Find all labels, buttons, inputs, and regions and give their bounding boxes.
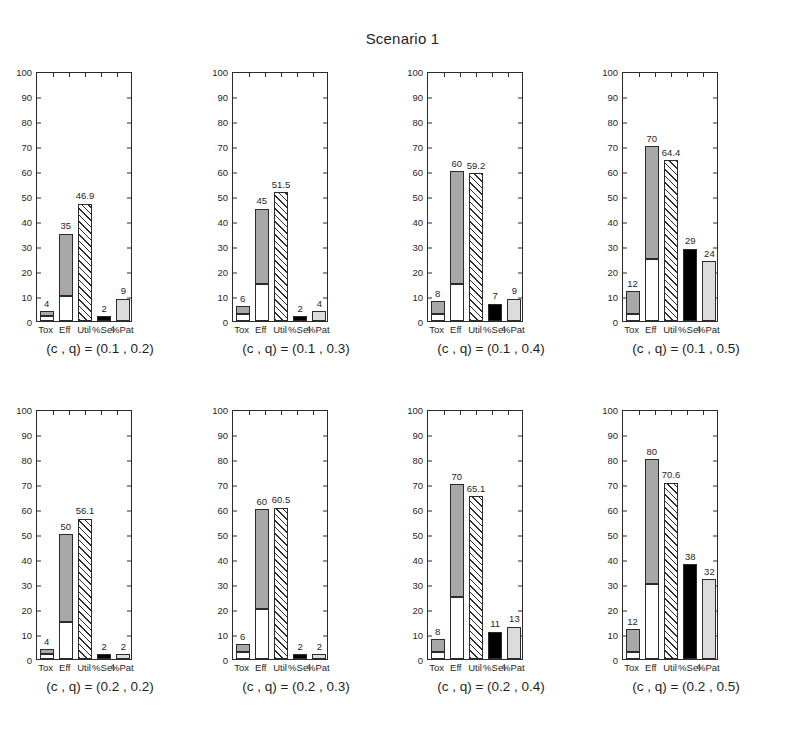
bar-segment-base — [236, 652, 250, 660]
bar-segment-base — [40, 654, 54, 659]
bar-pct-pat: 9 — [507, 299, 521, 322]
x-axis-tick-label: Util — [468, 325, 482, 335]
x-axis-tick-label: %Pat — [502, 325, 525, 335]
bar-segment — [116, 299, 130, 322]
bar-pct-sel: 2 — [293, 654, 307, 659]
bar-segment-top — [255, 209, 269, 284]
y-axis-tick-label: 10 — [21, 293, 37, 303]
bar-segment-top — [236, 306, 250, 314]
bar-series: 128070.63832 — [623, 411, 717, 659]
bar-value-label: 2 — [102, 642, 107, 652]
y-axis-tick-label: 60 — [412, 168, 428, 178]
bar-eff: 45 — [255, 209, 269, 322]
bar-value-label: 60 — [452, 159, 463, 169]
x-axis-tick-label: Eff — [450, 325, 461, 335]
y-axis-tick-label: 70 — [21, 481, 37, 491]
figure-title: Scenario 1 — [0, 30, 805, 47]
y-axis-tick-label: 80 — [217, 118, 233, 128]
y-axis-tick-label: 100 — [16, 406, 37, 416]
x-axis-tick-label: %Pat — [307, 663, 330, 673]
plot-axes: 010203040506070809010064551.524 — [232, 72, 328, 322]
bar-segment — [293, 654, 307, 659]
bar-eff: 70 — [450, 484, 464, 659]
y-axis-tick-label: 30 — [607, 243, 623, 253]
bar-value-label: 2 — [121, 642, 126, 652]
bar-segment-base — [236, 314, 250, 322]
bar-pct-pat: 4 — [312, 311, 326, 321]
bar-value-label: 8 — [435, 627, 440, 637]
x-axis-tick-label: %Pat — [697, 663, 720, 673]
bar-series: 43546.929 — [37, 73, 131, 321]
bar-segment — [488, 304, 502, 322]
bar-util: 64.4 — [664, 160, 678, 321]
chart-panel-1: 010203040506070809010043546.929ToxEffUti… — [2, 62, 198, 392]
bar-eff: 60 — [450, 171, 464, 321]
bar-segment-top — [236, 644, 250, 652]
y-axis-tick-label: 30 — [412, 581, 428, 591]
y-axis-tick-label: 40 — [217, 556, 233, 566]
bar-pct-sel: 7 — [488, 304, 502, 322]
y-axis-tick-label: 50 — [21, 531, 37, 541]
bar-series: 64551.524 — [233, 73, 327, 321]
x-axis-tick-label: Util — [77, 325, 91, 335]
bar-pct-sel: 2 — [293, 316, 307, 321]
bar-tox: 4 — [40, 649, 54, 659]
y-axis-tick-label: 40 — [412, 556, 428, 566]
x-axis-tick-label: Tox — [38, 663, 53, 673]
bar-segment — [78, 519, 92, 659]
bar-pct-pat: 32 — [702, 579, 716, 659]
bar-segment — [78, 204, 92, 321]
panel-grid: 010203040506070809010043546.929ToxEffUti… — [0, 62, 805, 736]
y-axis-tick-label: 70 — [21, 143, 37, 153]
y-axis-tick-label: 80 — [607, 456, 623, 466]
bar-pct-pat: 24 — [702, 261, 716, 321]
bar-pct-pat: 13 — [507, 627, 521, 660]
bar-segment-top — [645, 459, 659, 584]
y-axis-tick-label: 30 — [217, 581, 233, 591]
y-axis-tick-label: 50 — [412, 531, 428, 541]
x-axis-tick-label: Tox — [624, 663, 639, 673]
bar-value-label: 4 — [317, 299, 322, 309]
y-axis-tick-label: 30 — [412, 243, 428, 253]
y-axis-tick-label: 80 — [607, 118, 623, 128]
bar-segment-top — [645, 146, 659, 259]
y-axis-tick-label: 80 — [412, 456, 428, 466]
bar-segment-top — [626, 291, 640, 314]
x-axis-tick-label: Eff — [255, 663, 266, 673]
bar-segment — [97, 654, 111, 659]
x-axis-labels: ToxEffUtil%Sel%Pat — [622, 325, 718, 339]
bar-segment — [312, 311, 326, 321]
bar-value-label: 2 — [317, 642, 322, 652]
bar-eff: 60 — [255, 509, 269, 659]
bar-util: 65.1 — [469, 496, 483, 659]
bar-segment — [702, 579, 716, 659]
bar-segment-base — [626, 652, 640, 660]
x-axis-tick-label: Tox — [234, 325, 249, 335]
y-axis-tick-label: 90 — [412, 431, 428, 441]
x-axis-tick-label: Eff — [645, 325, 656, 335]
y-axis-tick-label: 60 — [21, 168, 37, 178]
bar-segment-top — [450, 484, 464, 597]
bar-segment — [683, 564, 697, 659]
bar-tox: 8 — [431, 301, 445, 321]
y-axis-tick-label: 60 — [217, 168, 233, 178]
x-axis-labels: ToxEffUtil%Sel%Pat — [232, 663, 328, 677]
bar-value-label: 11 — [490, 619, 500, 629]
bar-util: 46.9 — [78, 204, 92, 321]
x-axis-tick-label: Eff — [255, 325, 266, 335]
x-axis-tick-label: Tox — [624, 325, 639, 335]
bar-pct-pat: 2 — [116, 654, 130, 659]
chart-panel-5: 010203040506070809010045056.122ToxEffUti… — [2, 400, 198, 730]
bar-segment-top — [431, 639, 445, 652]
y-axis-tick-label: 100 — [212, 68, 233, 78]
y-axis-tick-label: 100 — [212, 406, 233, 416]
bar-segment-top — [59, 534, 73, 622]
panel-row: 010203040506070809010045056.122ToxEffUti… — [0, 400, 805, 736]
bar-value-label: 59.2 — [467, 161, 486, 171]
y-axis-tick-label: 80 — [412, 118, 428, 128]
bar-segment-base — [450, 597, 464, 660]
bar-segment — [469, 173, 483, 321]
y-axis-tick-label: 20 — [607, 268, 623, 278]
bar-eff: 80 — [645, 459, 659, 659]
bar-eff: 50 — [59, 534, 73, 659]
